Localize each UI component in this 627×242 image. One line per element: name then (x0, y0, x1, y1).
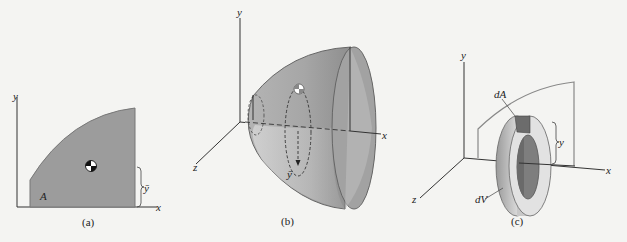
x-axis-label: x (605, 164, 611, 176)
area-element (515, 116, 530, 133)
dA-label: dA (494, 88, 507, 100)
z-axis (420, 158, 464, 198)
panel-c: y x z dA dV y (c) (411, 49, 611, 228)
distance-brace (552, 122, 559, 164)
z-axis-label: z (192, 161, 198, 173)
y-distance-label: y (558, 136, 564, 148)
centroid-icon (294, 84, 304, 94)
ring-volume-element (496, 116, 551, 216)
x-axis-label: x (381, 129, 387, 141)
x-axis-label: x (155, 201, 161, 213)
figure-canvas: y x A ȳ (a) y x z ȳ (b) (0, 0, 627, 242)
panel-a: y x A ȳ (a) (12, 90, 161, 229)
area-label: A (39, 190, 47, 202)
panel-b: y x z ȳ (b) (192, 6, 387, 228)
y-axis-label: y (12, 90, 18, 102)
ybar-label: ȳ (143, 182, 150, 194)
y-axis-label: y (460, 49, 466, 61)
caption-a: (a) (82, 216, 95, 229)
distance-brace (137, 167, 144, 207)
caption-b: (b) (281, 215, 294, 228)
y-axis-label: y (236, 6, 242, 18)
x-axis-stub (240, 122, 245, 123)
z-axis (196, 122, 240, 164)
caption-c: (c) (511, 215, 524, 228)
dV-label: dV (475, 193, 489, 205)
centroid-icon (86, 161, 97, 172)
z-axis-label: z (411, 193, 417, 205)
